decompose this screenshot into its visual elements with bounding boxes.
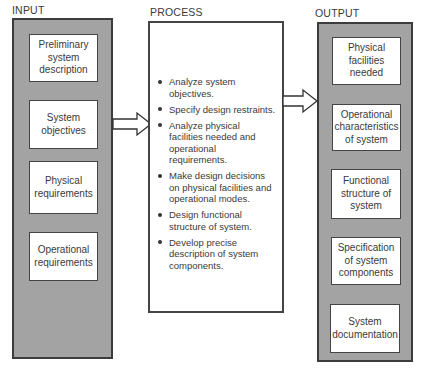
process-steps-list: Analyze system objectives. Specify desig… <box>156 76 276 276</box>
input-to-process-arrow-icon <box>113 110 153 138</box>
input-panel: Preliminary system description System ob… <box>12 18 113 359</box>
process-step: Analyze system objectives. <box>156 76 276 99</box>
process-step: Specify design restraints. <box>156 104 276 116</box>
output-box-system-documentation: System documentation <box>330 304 400 353</box>
process-label: PROCESS <box>150 6 203 18</box>
process-step: Design functional structure of system. <box>156 209 276 232</box>
output-label: OUTPUT <box>315 7 359 19</box>
input-box-physical-requirements: Physical requirements <box>29 161 98 214</box>
output-panel: Physical facilities needed Operational c… <box>317 22 413 362</box>
process-step: Develop precise description of system co… <box>156 237 276 272</box>
output-box-specification-of-components: Specification of system components <box>331 237 401 285</box>
output-box-operational-characteristics: Operational characteristics of system <box>332 104 401 151</box>
process-to-output-arrow-icon <box>283 87 319 115</box>
process-step: Analyze physical facilities needed and o… <box>156 120 276 166</box>
output-box-functional-structure: Functional structure of system <box>331 169 401 219</box>
output-box-physical-facilities-needed: Physical facilities needed <box>332 37 401 85</box>
input-box-system-objectives: System objectives <box>29 100 98 149</box>
input-label: INPUT <box>12 4 45 16</box>
input-box-operational-requirements: Operational requirements <box>29 232 98 281</box>
process-step: Make design decisions on physical facili… <box>156 170 276 205</box>
input-box-preliminary-system-description: Preliminary system description <box>29 34 98 82</box>
process-panel: Analyze system objectives. Specify desig… <box>148 21 284 313</box>
